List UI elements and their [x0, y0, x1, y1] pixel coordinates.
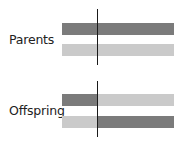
segment-left — [62, 44, 97, 56]
parents-label: Parents — [9, 33, 54, 47]
segment-right — [97, 94, 174, 106]
segment-right — [97, 23, 174, 35]
segment-right — [97, 44, 174, 56]
parent-chromosome-2 — [62, 44, 174, 56]
segment-left — [62, 23, 97, 35]
segment-right — [97, 116, 174, 128]
crossover-line-parents — [97, 9, 98, 65]
parent-chromosome-1 — [62, 23, 174, 35]
offspring-label: Offspring — [9, 104, 65, 118]
crossover-line-offspring — [97, 81, 98, 137]
segment-left — [62, 116, 97, 128]
offspring-chromosome-2 — [62, 116, 174, 128]
offspring-chromosome-1 — [62, 94, 174, 106]
segment-left — [62, 94, 97, 106]
